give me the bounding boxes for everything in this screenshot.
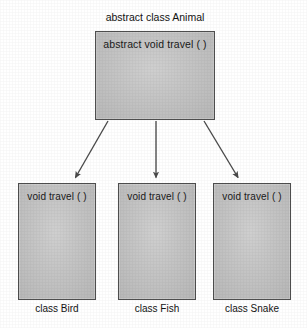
class-box-fish[interactable]: void travel ( ) — [118, 183, 196, 300]
class-member-bird-travel: void travel ( ) — [19, 191, 95, 202]
class-member-animal-travel: abstract void travel ( ) — [96, 38, 214, 50]
class-box-snake[interactable]: void travel ( ) — [213, 183, 291, 300]
arrow-animal-to-snake — [204, 121, 238, 178]
class-box-bird[interactable]: void travel ( ) — [18, 183, 96, 300]
arrow-animal-to-bird — [76, 121, 109, 178]
class-caption-fish: class Fish — [118, 303, 196, 314]
class-member-fish-travel: void travel ( ) — [119, 191, 195, 202]
uml-class-diagram: abstract class Animal abstract void trav… — [0, 0, 307, 328]
class-member-snake-travel: void travel ( ) — [214, 191, 290, 202]
class-box-animal[interactable]: abstract void travel ( ) — [95, 31, 215, 120]
class-caption-snake: class Snake — [213, 303, 291, 314]
parent-class-caption: abstract class Animal — [95, 11, 215, 23]
class-caption-bird: class Bird — [18, 303, 96, 314]
